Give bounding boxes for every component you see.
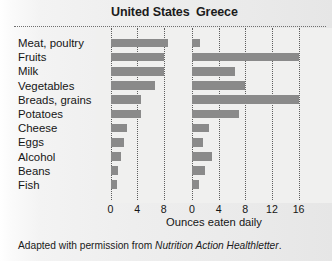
x-tick-label: 16 [293,203,305,215]
bar-greece [192,124,209,133]
table-row [0,135,332,149]
bar-united-states [111,180,118,189]
x-tick-label: 0 [108,203,114,215]
bar-greece [192,166,205,175]
bar-united-states [111,152,122,161]
bar-united-states [111,124,128,133]
x-tick-label: 0 [189,203,195,215]
x-tick-label: 12 [266,203,278,215]
bar-united-states [111,53,164,62]
table-row [0,178,332,192]
table-row [0,36,332,50]
bar-greece [192,110,239,119]
table-row [0,79,332,93]
bar-greece [192,138,203,147]
caption-prefix: Adapted with permission from [18,240,155,251]
bar-greece [192,180,199,189]
bar-greece [192,39,200,48]
header-divider [14,26,326,27]
bar-united-states [111,166,119,175]
bar-united-states [111,81,156,90]
table-row [0,93,332,107]
bar-united-states [111,39,168,48]
table-row [0,150,332,164]
x-tick-label: 4 [216,203,222,215]
bar-rows [0,36,332,192]
panel-header-greece: Greece [196,5,238,19]
bar-united-states [111,67,164,76]
chart-figure: United States Greece Meat, poultryFruits… [0,0,332,261]
panel-headers: United States Greece [0,5,332,25]
table-row [0,164,332,178]
bar-greece [192,81,245,90]
x-tick-label: 8 [161,203,167,215]
bar-greece [192,67,235,76]
x-tick-label: 8 [242,203,248,215]
table-row [0,64,332,78]
bar-united-states [111,95,142,104]
x-axis-title: Ounces eaten daily [96,216,332,228]
bar-greece [192,53,299,62]
table-row [0,107,332,121]
x-tick-label: 4 [134,203,140,215]
bar-greece [192,95,299,104]
panel-header-united-states: United States [111,5,190,19]
bar-united-states [111,110,142,119]
figure-caption: Adapted with permission from Nutrition A… [18,240,282,251]
caption-source: Nutrition Action Healthletter [155,240,279,251]
bar-greece [192,152,212,161]
x-axis-tick-labels: 0480481216 [0,203,332,217]
table-row [0,121,332,135]
bar-united-states [111,138,124,147]
caption-suffix: . [279,240,282,251]
table-row [0,50,332,64]
